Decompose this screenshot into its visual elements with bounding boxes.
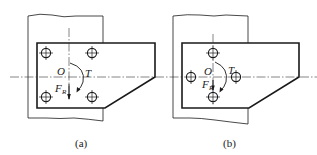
bolt-hole <box>85 90 99 104</box>
caption-b: (b) <box>223 137 236 150</box>
force-subscript-b: R <box>208 84 214 92</box>
support-column-a <box>28 14 103 121</box>
bolt-hole <box>206 90 220 104</box>
arrowhead-icon <box>67 94 71 100</box>
torque-arrow-b <box>215 62 227 90</box>
panel-b: O T F R (b) <box>173 15 299 150</box>
bolt-hole <box>186 70 196 84</box>
torque-arrow-a <box>70 63 83 90</box>
bolt-hole <box>39 46 53 60</box>
panel-a: O T F R (a) <box>10 14 317 150</box>
bolt-hole <box>206 46 220 60</box>
force-subscript-a: R <box>61 88 67 96</box>
torque-label-b: T <box>228 64 235 76</box>
center-label-b: O <box>204 65 212 77</box>
torque-label-a: T <box>85 67 92 79</box>
bolted-joint-diagram: O T F R (a) <box>0 0 317 155</box>
force-label-b: F <box>201 78 209 90</box>
center-label-a: O <box>57 65 65 77</box>
bolt-hole <box>39 90 53 104</box>
bolt-hole <box>85 46 99 60</box>
force-label-a: F <box>54 82 62 94</box>
caption-a: (a) <box>75 137 88 150</box>
